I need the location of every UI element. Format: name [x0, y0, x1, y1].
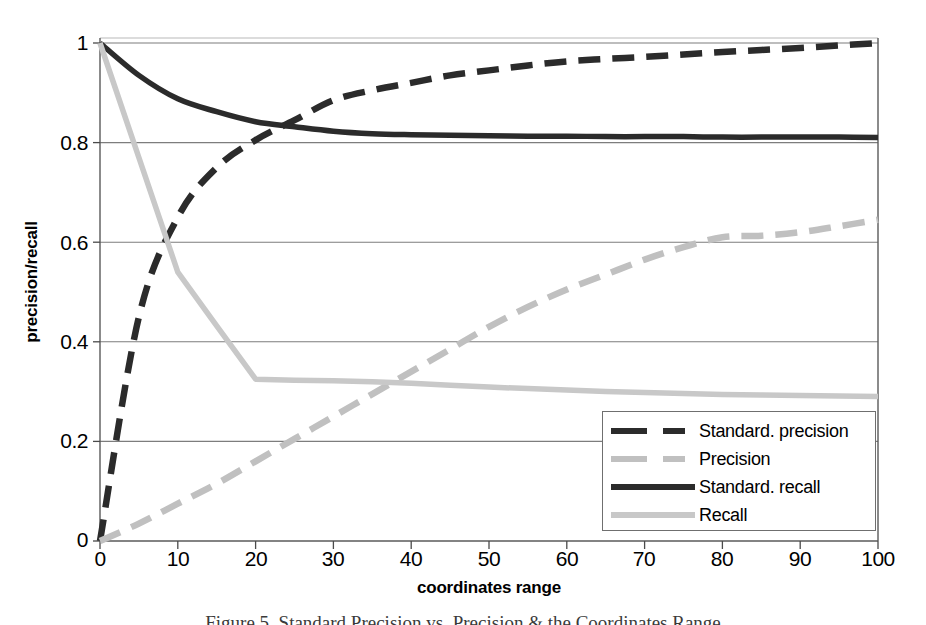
legend-item-precision: Precision: [603, 445, 875, 473]
legend-item-recall: Recall: [603, 501, 875, 529]
legend-label-recall: Recall: [699, 505, 747, 526]
series-line-recall: [100, 43, 878, 397]
legend-swatch-precision: [611, 452, 695, 466]
chart-legend: Standard. precision Precision Standard. …: [602, 411, 876, 531]
legend-label-precision: Precision: [699, 449, 770, 470]
legend-swatch-standard-precision: [611, 424, 695, 438]
legend-swatch-recall: [611, 508, 695, 522]
legend-swatch-standard-recall: [611, 480, 695, 494]
series-line-standard-recall: [100, 43, 878, 138]
legend-item-standard-precision: Standard. precision: [603, 417, 875, 445]
legend-item-standard-recall: Standard. recall: [603, 473, 875, 501]
plot-area: [0, 0, 926, 625]
legend-label-standard-precision: Standard. precision: [699, 421, 848, 442]
figure-container: precision/recall 1 0.8 0.6 0.4 0.2 0 0 1…: [0, 0, 926, 625]
figure-caption: Figure 5. Standard Precision vs. Precisi…: [0, 612, 926, 625]
legend-label-standard-recall: Standard. recall: [699, 477, 820, 498]
gridlines: [100, 38, 878, 441]
